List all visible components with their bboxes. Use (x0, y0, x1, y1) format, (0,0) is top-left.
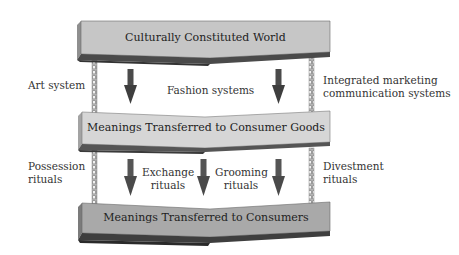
label-fashion-systems: Fashion systems (167, 84, 254, 97)
label-exchange-rituals: Exchange rituals (142, 166, 194, 192)
label-divestment-line1: Divestment (323, 160, 384, 173)
label-grooming-rituals: Grooming rituals (215, 166, 267, 192)
label-exchange-line1: Exchange (142, 166, 194, 179)
chain-left-lower (92, 148, 97, 204)
chain-right-lower (309, 148, 314, 204)
box-label-culturally-constituted-world: Culturally Constituted World (81, 31, 330, 44)
label-art-system: Art system (28, 79, 85, 92)
label-integrated-marketing-line2: communication systems (323, 87, 451, 100)
meaning-transfer-diagram: Culturally Constituted World Meanings Tr… (0, 0, 459, 255)
label-possession-rituals: Possession rituals (28, 160, 85, 186)
label-integrated-marketing-line1: Integrated marketing (323, 74, 451, 87)
label-integrated-marketing: Integrated marketing communication syste… (323, 74, 451, 100)
label-possession-line2: rituals (28, 173, 85, 186)
arrow-down-icon (197, 159, 210, 196)
label-exchange-line2: rituals (142, 179, 194, 192)
label-grooming-line2: rituals (215, 179, 267, 192)
label-divestment-rituals: Divestment rituals (323, 160, 384, 186)
chain-left-upper (92, 57, 97, 114)
box-label-consumer-goods: Meanings Transferred to Consumer Goods (82, 121, 330, 134)
label-possession-line1: Possession (28, 160, 85, 173)
label-grooming-line1: Grooming (215, 166, 267, 179)
arrow-down-icon (124, 159, 137, 196)
box-label-consumers: Meanings Transferred to Consumers (82, 211, 330, 224)
arrow-down-icon (124, 69, 137, 104)
label-divestment-line2: rituals (323, 173, 384, 186)
box-consumers (78, 202, 330, 246)
arrow-down-icon (272, 159, 285, 196)
arrow-down-icon (272, 69, 285, 104)
chain-right-upper (309, 57, 314, 114)
